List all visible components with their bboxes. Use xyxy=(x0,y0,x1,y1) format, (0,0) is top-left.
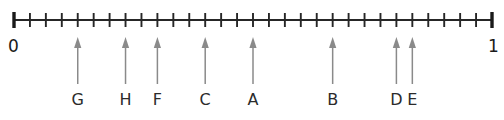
marker-arrow-b xyxy=(329,37,336,84)
marker-label-a: A xyxy=(248,92,259,108)
arrow-head xyxy=(122,37,129,48)
marker-label-h: H xyxy=(120,92,132,108)
marker-arrow-g xyxy=(74,37,81,84)
arrow-head xyxy=(154,37,161,48)
marker-arrow-d xyxy=(393,37,400,84)
marker-label-d: D xyxy=(390,92,402,108)
arrow-head xyxy=(249,37,256,48)
marker-arrow-e xyxy=(409,37,416,84)
axis-end-label: 1 xyxy=(488,38,499,55)
arrow-head xyxy=(202,37,209,48)
marker-label-g: G xyxy=(72,92,84,108)
marker-arrow-a xyxy=(249,37,256,84)
marker-arrow-c xyxy=(202,37,209,84)
arrow-head xyxy=(329,37,336,48)
arrow-head xyxy=(409,37,416,48)
marker-arrow-f xyxy=(154,37,161,84)
arrow-head xyxy=(393,37,400,48)
number-line-figure: 0 1 GHFCABDE xyxy=(0,0,504,120)
marker-label-c: C xyxy=(200,92,211,108)
marker-arrow-h xyxy=(122,37,129,84)
arrow-head xyxy=(74,37,81,48)
marker-label-f: F xyxy=(153,92,162,108)
marker-label-b: B xyxy=(327,92,338,108)
marker-label-e: E xyxy=(407,92,417,108)
marker-arrows xyxy=(74,37,416,84)
axis-start-label: 0 xyxy=(8,38,19,55)
